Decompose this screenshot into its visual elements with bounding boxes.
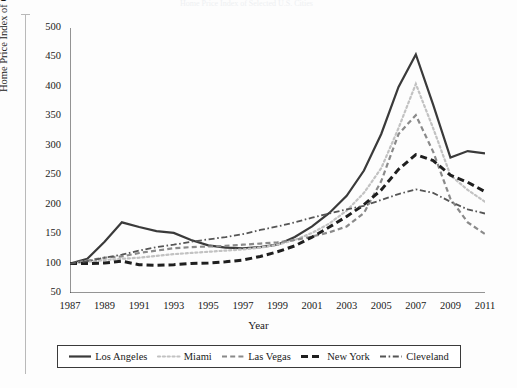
y-tick-label: 50	[31, 286, 61, 297]
legend-label: Las Vegas	[248, 351, 291, 362]
y-tick-label: 400	[31, 80, 61, 91]
legend-item-los-angeles[interactable]: Los Angeles	[69, 351, 147, 362]
series-line-los-angeles	[70, 55, 485, 264]
y-axis-title: Home Price Index of Cities	[0, 0, 9, 92]
series-line-cleveland	[70, 189, 485, 263]
series-line-miami	[70, 84, 485, 264]
legend-label: Miami	[184, 351, 212, 362]
x-axis-title: Year	[0, 319, 517, 331]
series-line-new-york	[70, 155, 485, 266]
y-tick-label: 200	[31, 198, 61, 209]
legend-item-las-vegas[interactable]: Las Vegas	[222, 351, 291, 362]
chart-canvas	[70, 28, 485, 293]
cropped-title-text: Home Price Index of Selected U.S. Cities	[180, 0, 380, 7]
legend-swatch-icon	[222, 352, 244, 361]
legend-label: New York	[327, 351, 370, 362]
legend-item-miami[interactable]: Miami	[158, 351, 212, 362]
legend-swatch-icon	[380, 352, 402, 361]
chart-figure: Home Price Index of Selected U.S. Cities…	[0, 0, 517, 388]
y-tick-label: 100	[31, 257, 61, 268]
y-tick-label: 300	[31, 139, 61, 150]
legend-swatch-icon	[69, 352, 91, 361]
y-tick-label: 450	[31, 50, 61, 61]
legend-swatch-icon	[301, 352, 323, 361]
y-tick-label: 500	[31, 21, 61, 32]
chart-legend: Los AngelesMiamiLas VegasNew YorkClevela…	[57, 345, 461, 368]
y-tick-label: 250	[31, 168, 61, 179]
legend-label: Los Angeles	[95, 351, 147, 362]
y-tick-label: 350	[31, 109, 61, 120]
legend-item-cleveland[interactable]: Cleveland	[380, 351, 449, 362]
legend-swatch-icon	[158, 352, 180, 361]
series-line-las-vegas	[70, 115, 485, 263]
legend-item-new-york[interactable]: New York	[301, 351, 370, 362]
x-tick-label: 2011	[465, 300, 505, 311]
legend-label: Cleveland	[406, 351, 449, 362]
y-tick-label: 150	[31, 227, 61, 238]
plot-area	[70, 28, 485, 293]
